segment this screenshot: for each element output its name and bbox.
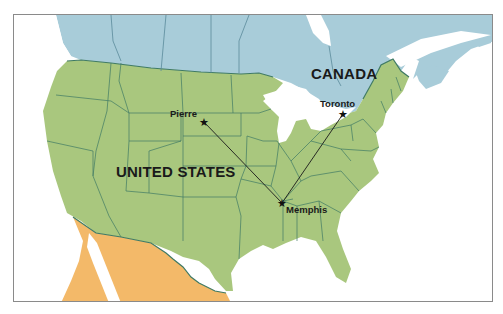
united-states-label: UNITED STATES [116,164,236,179]
pierre-star-icon: ★ [199,116,209,128]
canada-label: CANADA [311,66,377,81]
toronto-star-icon: ★ [338,108,348,120]
north-america-map: ★ ★ ★ [14,15,493,302]
map-frame: ★ ★ ★ [13,14,493,302]
city-label-toronto: Toronto [320,99,355,109]
city-label-memphis: Memphis [286,205,327,215]
city-label-pierre: Pierre [170,109,197,119]
